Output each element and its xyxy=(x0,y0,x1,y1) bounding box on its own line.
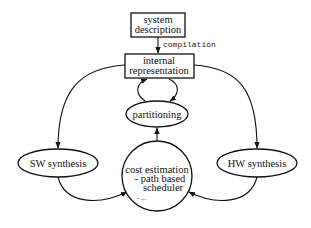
hw-synthesis-label: HW synthesis xyxy=(228,158,286,169)
arrow-to-hw-synthesis xyxy=(194,65,257,148)
loop-arrow-down xyxy=(169,79,177,101)
sw-synthesis-label: SW synthesis xyxy=(30,158,87,169)
compilation-label: compilation xyxy=(163,40,216,49)
partitioning-label: partitioning xyxy=(133,109,183,120)
node-system-description: system description xyxy=(131,13,185,37)
node-sw-synthesis: SW synthesis xyxy=(18,149,98,177)
loop-arrow-up xyxy=(138,79,147,101)
arrow-to-sw-synthesis xyxy=(58,65,125,148)
design-flow-diagram: compilation system description internal … xyxy=(0,0,311,228)
node-hw-synthesis: HW synthesis xyxy=(217,149,297,177)
system-description-line2: description xyxy=(135,24,182,35)
internal-representation-line2: representation xyxy=(129,65,189,76)
cost-estimation-line4: - ... xyxy=(137,194,147,202)
node-cost-estimation: cost estimation - path based scheduler -… xyxy=(122,141,192,211)
node-internal-representation: internal representation xyxy=(125,54,194,78)
arrow-sw-to-cost xyxy=(58,177,127,200)
node-partitioning: partitioning xyxy=(126,101,188,127)
cost-estimation-line3: scheduler xyxy=(143,182,184,193)
arrow-hw-to-cost xyxy=(189,177,257,200)
